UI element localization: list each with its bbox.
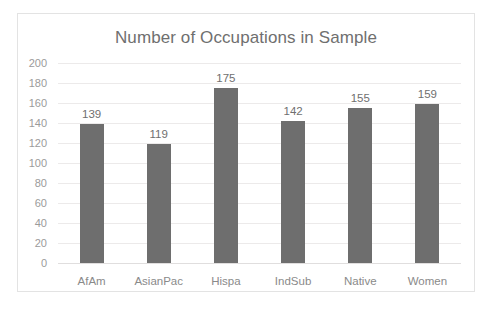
- y-axis-tick-label: 200: [29, 57, 47, 69]
- bar: [80, 124, 104, 263]
- y-axis-tick-label: 120: [29, 137, 47, 149]
- bar-value-label: 175: [216, 72, 235, 84]
- y-axis-tick-label: 0: [41, 257, 47, 269]
- chart-title: Number of Occupations in Sample: [18, 28, 474, 48]
- bar-group: 139AfAm: [58, 63, 125, 263]
- bar-value-label: 142: [283, 105, 302, 117]
- x-axis-category-label: IndSub: [275, 275, 311, 287]
- x-axis-category-label: AsianPac: [134, 275, 183, 287]
- x-axis-category-label: AfAm: [78, 275, 106, 287]
- bar: [348, 108, 372, 263]
- chart-frame: Number of Occupations in Sample 20018016…: [17, 13, 475, 292]
- bar: [147, 144, 171, 263]
- y-axis-tick-label: 140: [29, 117, 47, 129]
- x-axis-category-label: Hispa: [211, 275, 240, 287]
- bar-group: 159Women: [394, 63, 461, 263]
- gridline: [58, 263, 461, 264]
- y-axis-tick-label: 60: [35, 197, 47, 209]
- y-axis-tick-label: 160: [29, 97, 47, 109]
- x-axis-category-label: Native: [344, 275, 377, 287]
- y-axis-tick-label: 100: [29, 157, 47, 169]
- bar-group: 119AsianPac: [125, 63, 192, 263]
- bar: [415, 104, 439, 263]
- y-axis-tick-label: 20: [35, 237, 47, 249]
- bar: [281, 121, 305, 263]
- bar-value-label: 139: [82, 108, 101, 120]
- bar-group: 155Native: [327, 63, 394, 263]
- x-axis-category-label: Women: [408, 275, 447, 287]
- bar-value-label: 159: [418, 88, 437, 100]
- bar-group: 175Hispa: [192, 63, 259, 263]
- bar-series: 139AfAm119AsianPac175Hispa142IndSub155Na…: [58, 63, 461, 263]
- y-axis-tick-label: 180: [29, 77, 47, 89]
- plot-area: 200180160140120100806040200 139AfAm119As…: [58, 63, 461, 263]
- bar-group: 142IndSub: [260, 63, 327, 263]
- y-axis-tick-label: 40: [35, 217, 47, 229]
- bar: [214, 88, 238, 263]
- bar-value-label: 155: [351, 92, 370, 104]
- y-axis-tick-label: 80: [35, 177, 47, 189]
- bar-value-label: 119: [150, 128, 168, 140]
